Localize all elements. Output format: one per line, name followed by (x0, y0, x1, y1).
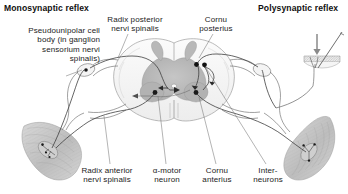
label-alpha-motor-neuron: α-motor neuron (146, 166, 188, 185)
label-cornu-anterius: Cornu anterius (196, 166, 238, 185)
nociceptor-skin-icon (276, 32, 344, 108)
afferent-cell-body (84, 68, 88, 72)
label-radix-posterior-nervi-spinalis: Radix posterior nervi spinalis (98, 15, 172, 34)
muscle-spindle-right (284, 116, 335, 180)
interneuron-soma-2 (202, 62, 207, 67)
label-interneurons: Inter- neurons (246, 166, 290, 185)
stimulus-arrow-icon (313, 34, 320, 55)
heading-polysynaptic-reflex: Polysynaptic reflex (258, 3, 338, 13)
alpha-motor-neuron-soma-left (153, 90, 158, 95)
heading-monosynaptic-reflex: Monosynaptic reflex (4, 3, 89, 13)
alpha-motor-neuron-soma-right (194, 90, 199, 95)
label-radix-anterior-nervi-spinalis: Radix anterior nervi spinalis (72, 166, 142, 185)
interneuron-soma-1 (194, 62, 199, 67)
label-pseudounipolar-cell-body: Pseudounipolar cell body (in ganglion se… (2, 26, 100, 64)
label-cornu-posterius: Cornu posterius (190, 15, 242, 34)
